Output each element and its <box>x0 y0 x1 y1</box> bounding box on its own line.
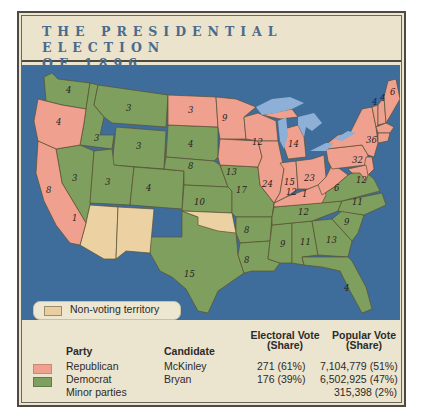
header-electoral-line2: (Share) <box>240 340 330 350</box>
party-minor: Minor parties <box>66 386 127 398</box>
democrat-swatch <box>33 377 52 387</box>
popular-mckinley: 7,104,779 (51%) <box>320 360 398 372</box>
results-table: Party Candidate Electoral Vote (Share) P… <box>22 322 400 402</box>
label-la: 8 <box>244 255 250 265</box>
label-wv: 6 <box>334 183 340 193</box>
label-co: 4 <box>145 183 151 193</box>
label-mt: 3 <box>126 103 131 113</box>
label-va: 12 <box>356 175 367 185</box>
label-id: 3 <box>94 133 99 143</box>
label-nv: 3 <box>72 173 77 183</box>
label-tn: 12 <box>298 207 309 217</box>
label-ny: 36 <box>366 135 377 145</box>
state-connecticut-ri <box>378 133 390 143</box>
popular-bryan: 6,502,925 (47%) <box>320 373 398 385</box>
map-frame: THE PRESIDENTIAL ELECTION OF 1896 <box>17 11 406 407</box>
non-voting-swatch <box>44 306 62 316</box>
republican-swatch <box>33 364 52 374</box>
label-mo: 17 <box>236 185 247 195</box>
label-me: 6 <box>390 87 396 97</box>
label-ia: 13 <box>226 167 237 177</box>
party-republican: Republican <box>66 360 119 372</box>
label-ca-d: 1 <box>72 213 77 223</box>
header-popular-line2: (Share) <box>324 340 404 350</box>
label-mi: 14 <box>288 139 299 149</box>
label-ar: 8 <box>244 225 250 235</box>
party-democrat: Democrat <box>66 373 112 385</box>
label-ne: 8 <box>188 161 194 171</box>
label-il: 24 <box>261 179 273 189</box>
label-al: 11 <box>300 237 311 247</box>
label-wa: 4 <box>65 85 71 95</box>
popular-minor: 315,398 (2%) <box>334 386 397 398</box>
label-ky-d: 1 <box>302 189 307 199</box>
territory-new-mexico <box>116 207 154 259</box>
state-kansas <box>182 185 232 213</box>
label-sc: 9 <box>344 217 350 227</box>
label-mn: 9 <box>222 113 228 123</box>
label-ga: 13 <box>326 235 337 245</box>
label-tx: 15 <box>184 269 195 279</box>
label-wi: 12 <box>252 137 263 147</box>
label-fl: 4 <box>343 283 349 293</box>
state-colorado <box>130 167 184 209</box>
header-candidate: Candidate <box>164 346 215 356</box>
us-map-svg: 4 4 8 1 3 3 3 3 3 4 3 4 8 10 15 9 13 17 … <box>22 65 400 320</box>
title-panel: THE PRESIDENTIAL ELECTION OF 1896 <box>22 16 401 62</box>
state-florida <box>302 257 372 313</box>
header-party: Party <box>66 346 92 356</box>
label-nc: 11 <box>352 197 363 207</box>
state-maine <box>384 79 400 123</box>
label-vt: 4 <box>371 97 377 107</box>
header-electoral: Electoral Vote (Share) <box>240 330 330 350</box>
label-or: 4 <box>55 117 61 127</box>
label-sd: 4 <box>187 139 193 149</box>
label-pa: 32 <box>352 155 363 165</box>
non-voting-legend: Non-voting territory <box>33 301 181 320</box>
title-line-1: THE PRESIDENTIAL ELECTION <box>42 24 401 56</box>
header-popular: Popular Vote (Share) <box>324 330 404 350</box>
label-ut: 3 <box>105 177 110 187</box>
label-wy: 3 <box>136 141 141 151</box>
candidate-bryan: Bryan <box>164 373 191 385</box>
label-nd: 3 <box>188 105 193 115</box>
non-voting-label: Non-voting territory <box>70 303 159 315</box>
candidate-mckinley: McKinley <box>164 360 207 372</box>
label-in: 15 <box>284 177 295 187</box>
state-arkansas <box>236 217 272 243</box>
label-ca: 8 <box>46 185 52 195</box>
label-ks: 10 <box>194 197 205 207</box>
label-ms: 9 <box>280 239 286 249</box>
electoral-mckinley: 271 (61%) <box>257 360 305 372</box>
electoral-bryan: 176 (39%) <box>257 373 305 385</box>
election-map: 4 4 8 1 3 3 3 3 3 4 3 4 8 10 15 9 13 17 … <box>22 65 400 320</box>
label-ky: 12 <box>286 187 297 197</box>
label-nh: 4 <box>379 93 385 103</box>
label-oh: 23 <box>303 173 315 183</box>
